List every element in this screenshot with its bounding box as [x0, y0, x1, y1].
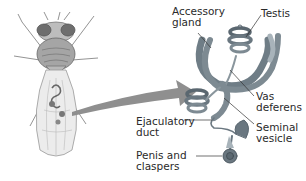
diagram-canvas: Accessory gland Testis Vas deferens Ejac… — [0, 0, 306, 181]
label-accessory-gland: Accessory gland — [172, 6, 225, 28]
label-ejaculatory-duct: Ejaculatory duct — [136, 116, 195, 138]
label-testis: Testis — [261, 8, 290, 19]
fruit-fly-illustration — [14, 12, 98, 156]
label-seminal-vesicle: Seminal vesicle — [256, 122, 298, 144]
label-vas-deferens: Vas deferens — [256, 91, 302, 113]
leader-seminal-vesicle — [224, 98, 254, 124]
magnify-arrow — [72, 80, 196, 116]
leader-testis — [246, 15, 261, 37]
label-penis-claspers: Penis and claspers — [136, 150, 187, 172]
